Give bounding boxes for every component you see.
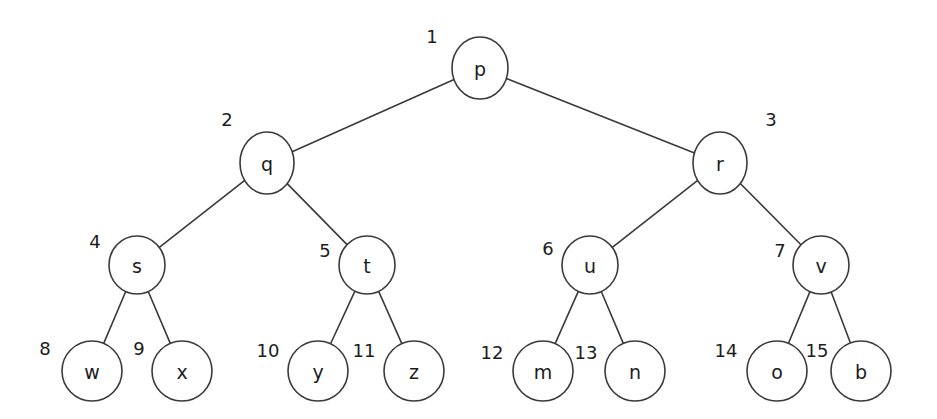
node-index-p: 1 [426,26,437,47]
tree-edge-q-s [159,180,244,247]
node-index-w: 8 [39,338,50,359]
node-label-p: p [474,58,486,80]
node-label-u: u [584,255,596,277]
tree-canvas: 123456789101112131415 pqrstuvwxyzmnob [0,0,937,419]
tree-node-r[interactable]: r [693,132,747,194]
node-index-b: 15 [806,340,829,361]
node-label-b: b [855,361,867,383]
tree-edge-t-y [331,291,355,344]
tree-edge-u-n [601,292,623,344]
node-label-x: x [176,361,187,383]
binary-tree-figure: 123456789101112131415 pqrstuvwxyzmnob [0,0,937,419]
tree-edge-s-x [148,292,170,344]
node-label-m: m [534,361,553,383]
tree-node-n[interactable]: n [605,341,665,401]
tree-edge-v-o [789,292,810,344]
node-label-s: s [132,255,142,277]
tree-edge-t-z [379,291,402,343]
tree-node-m[interactable]: m [513,341,573,401]
tree-edge-r-u [612,180,697,247]
tree-node-v[interactable]: v [793,236,849,294]
node-label-z: z [409,361,419,383]
node-index-v: 7 [774,240,785,261]
node-index-s: 4 [89,231,100,252]
node-label-y: y [312,361,323,383]
tree-edge-r-v [740,183,801,244]
node-label-n: n [629,361,641,383]
tree-edge-u-m [555,291,578,343]
node-label-t: t [363,255,370,277]
node-index-n: 13 [575,342,598,363]
node-label-r: r [716,153,724,175]
tree-node-y[interactable]: y [288,341,348,401]
node-label-w: w [84,361,100,383]
node-label-v: v [815,255,826,277]
tree-node-b[interactable]: b [831,341,891,401]
node-label-o: o [771,361,783,383]
node-index-x: 9 [133,338,144,359]
tree-edge-p-q [292,80,454,152]
tree-edges: 123456789101112131415 [39,26,850,363]
node-index-y: 10 [257,340,280,361]
tree-node-s[interactable]: s [109,236,165,294]
node-index-z: 11 [353,340,376,361]
tree-node-p[interactable]: p [452,37,508,99]
tree-node-q[interactable]: q [240,132,294,194]
tree-node-z[interactable]: z [384,341,444,401]
node-index-o: 14 [715,340,738,361]
tree-edge-s-w [104,292,126,344]
tree-node-o[interactable]: o [747,341,807,401]
tree-node-x[interactable]: x [152,341,212,401]
tree-node-u[interactable]: u [562,236,618,294]
tree-nodes: pqrstuvwxyzmnob [62,37,891,401]
tree-edge-q-t [287,184,347,245]
node-index-t: 5 [319,240,330,261]
node-label-q: q [261,153,273,175]
tree-edge-v-b [831,292,850,343]
tree-node-w[interactable]: w [62,341,122,401]
tree-edge-p-r [506,78,694,152]
node-index-r: 3 [765,109,776,130]
node-index-q: 2 [221,109,232,130]
tree-node-t[interactable]: t [339,236,395,294]
node-index-u: 6 [542,238,553,259]
node-index-m: 12 [481,342,504,363]
